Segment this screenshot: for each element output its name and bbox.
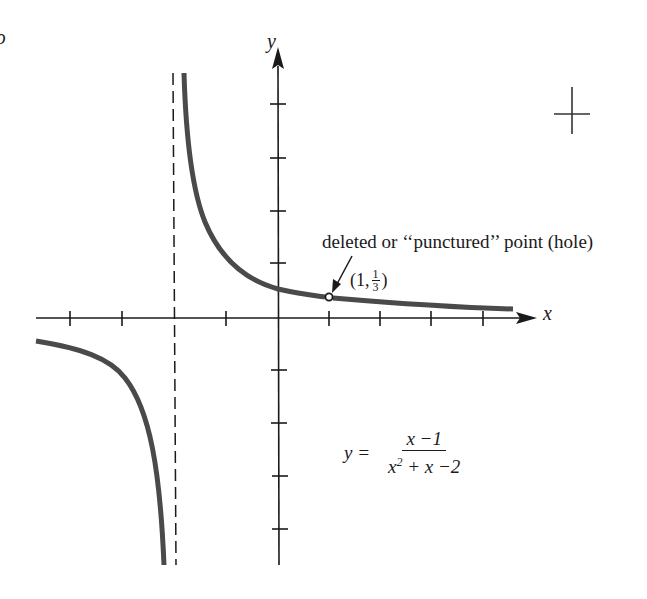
coord-open: (1, [350, 270, 370, 291]
hole-marker [325, 293, 332, 300]
coord-denominator: 3 [373, 281, 379, 293]
hole-annotation: deleted or ‘‘punctured’’ point (hole) [322, 231, 593, 253]
corner-glyph: ρ [0, 26, 6, 49]
den-rest: + x −2 [402, 456, 460, 477]
equation-denominator: x2 + x −2 [388, 451, 460, 478]
annotation-arrowhead-icon [332, 279, 341, 293]
graph-canvas [0, 0, 647, 599]
y-axis-label: y [267, 30, 276, 53]
x-axis [36, 311, 525, 326]
vertical-asymptote [173, 73, 176, 565]
function-equation: y = x −1 x2 + x −2 [344, 428, 460, 478]
y-axis [270, 66, 288, 565]
equation-numerator: x −1 [402, 428, 446, 451]
equation-fraction: x −1 x2 + x −2 [388, 428, 460, 478]
coord-close: ) [382, 270, 388, 291]
curve-left-branch [36, 341, 164, 565]
crosshair-mark [554, 87, 590, 134]
hole-coordinate: (1, 1 3 ) [350, 268, 388, 293]
x-axis-label: x [543, 302, 552, 325]
equation-lhs: y = [344, 442, 370, 464]
curve-right-branch [184, 73, 513, 309]
coord-fraction: 1 3 [372, 268, 380, 293]
